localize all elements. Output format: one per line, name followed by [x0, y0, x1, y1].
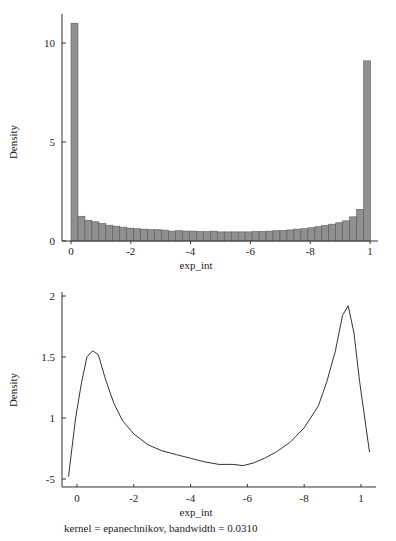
density-x-axis-title: exp_int — [180, 506, 213, 518]
histogram-bar — [127, 228, 134, 241]
histogram-bar — [294, 229, 301, 241]
chart-canvas: 0510 0-2-4-6-81 exp_int Density -511.52 … — [0, 0, 396, 541]
histogram-bar — [203, 232, 210, 241]
x-tick-label: -2 — [129, 492, 138, 504]
x-tick-label: -8 — [300, 492, 310, 504]
y-tick-label: 2 — [50, 290, 56, 302]
density-panel: -511.52 0-2-4-6-81 exp_int Density kerne… — [7, 290, 376, 534]
histogram-y-ticks: 0510 — [44, 37, 66, 247]
histogram-bar — [176, 231, 183, 241]
histogram-bar — [336, 223, 343, 241]
histogram-bar — [364, 61, 371, 241]
histogram-bar — [329, 224, 336, 241]
x-tick-label: -4 — [186, 245, 196, 257]
histogram-bar — [252, 231, 259, 241]
histogram-bar — [231, 232, 238, 241]
histogram-bar — [92, 222, 99, 241]
x-tick-label: 0 — [68, 245, 74, 257]
histogram-bar — [169, 231, 176, 241]
histogram-bar — [259, 231, 266, 241]
histogram-bars — [71, 23, 371, 241]
histogram-bar — [301, 229, 308, 241]
kernel-bandwidth-note: kernel = epanechnikov, bandwidth = 0.031… — [64, 522, 258, 534]
histogram-bar — [322, 226, 329, 241]
x-tick-label: 1 — [358, 492, 364, 504]
y-tick-label: -5 — [46, 473, 56, 485]
histogram-x-ticks: 0-2-4-6-81 — [68, 241, 373, 257]
histogram-bar — [315, 227, 322, 241]
histogram-bar — [134, 229, 141, 241]
histogram-bar — [273, 231, 280, 241]
histogram-bar — [196, 231, 203, 241]
histogram-bar — [99, 224, 106, 241]
histogram-x-axis-title: exp_int — [180, 259, 213, 271]
histogram-bar — [148, 230, 155, 241]
histogram-bar — [113, 226, 120, 241]
histogram-bar — [155, 230, 162, 241]
histogram-bar — [106, 225, 113, 241]
x-tick-label: -6 — [243, 492, 253, 504]
y-tick-label: 5 — [50, 136, 56, 148]
histogram-bar — [287, 230, 294, 241]
histogram-bar — [308, 228, 315, 241]
y-tick-label: 0 — [50, 235, 56, 247]
histogram-bar — [343, 221, 350, 241]
histogram-bar — [85, 220, 92, 241]
histogram-bar — [280, 230, 287, 241]
histogram-bar — [141, 229, 148, 241]
x-tick-label: -2 — [126, 245, 135, 257]
y-tick-label: 1.5 — [41, 351, 55, 363]
histogram-bar — [71, 23, 78, 241]
histogram-bar — [120, 227, 127, 241]
x-tick-label: -8 — [306, 245, 316, 257]
histogram-bar — [357, 209, 364, 241]
histogram-bar — [162, 230, 169, 241]
x-tick-label: 0 — [74, 492, 80, 504]
x-tick-label: 1 — [367, 245, 373, 257]
histogram-bar — [189, 231, 196, 241]
histogram-bar — [217, 232, 224, 241]
y-tick-label: 1 — [50, 412, 56, 424]
histogram-bar — [245, 232, 252, 241]
histogram-bar — [350, 217, 357, 241]
histogram-bar — [210, 231, 217, 241]
histogram-bar — [238, 232, 245, 241]
x-tick-label: -6 — [246, 245, 256, 257]
histogram-bar — [182, 231, 189, 241]
x-tick-label: -4 — [186, 492, 196, 504]
histogram-y-axis-title: Density — [7, 124, 19, 159]
y-tick-label: 10 — [44, 37, 56, 49]
histogram-bar — [78, 216, 85, 241]
density-curve — [69, 306, 370, 477]
density-y-axis-title: Density — [7, 372, 19, 407]
histogram-bar — [224, 232, 231, 241]
histogram-bar — [266, 231, 273, 241]
histogram-panel: 0510 0-2-4-6-81 exp_int Density — [7, 14, 378, 271]
